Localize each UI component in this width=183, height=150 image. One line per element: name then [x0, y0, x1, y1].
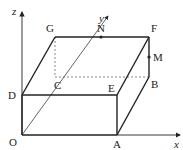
- point-n: [99, 35, 102, 38]
- label-e: E: [108, 82, 115, 94]
- label-m: M: [153, 51, 163, 63]
- label-d: D: [8, 89, 16, 101]
- label-x: x: [173, 138, 179, 150]
- label-c: C: [54, 79, 61, 91]
- label-n: N: [97, 22, 105, 34]
- label-g: G: [46, 22, 54, 34]
- y-axis: [22, 16, 108, 135]
- label-z: z: [11, 5, 17, 17]
- label-o: O: [9, 136, 17, 148]
- label-a: A: [113, 138, 121, 150]
- label-f: F: [151, 22, 157, 34]
- cuboid-diagram: z y x G N F M C B D E O A: [0, 0, 183, 150]
- point-m: [147, 55, 150, 58]
- edge-dg: [22, 37, 55, 95]
- label-b: B: [151, 78, 158, 90]
